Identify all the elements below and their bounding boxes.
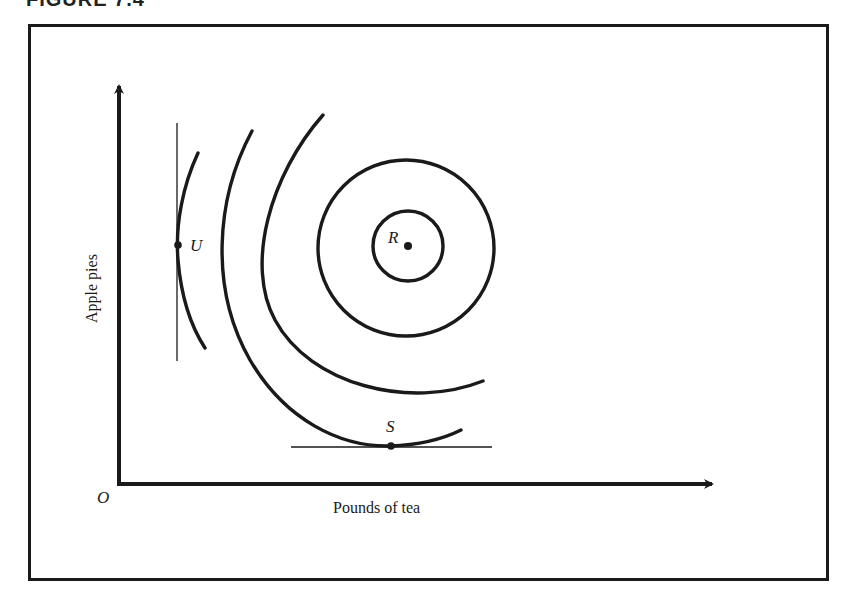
x-axis-label: Pounds of tea (333, 499, 420, 516)
point-r-label: R (387, 228, 399, 247)
point-r-dot (404, 242, 412, 250)
point-u-dot (174, 241, 182, 249)
indifference-diagram: R U S O Pounds of tea Apple pies (0, 0, 855, 602)
s-indifference-arc (222, 131, 461, 446)
origin-label: O (97, 488, 109, 507)
point-u-label: U (190, 236, 204, 255)
point-s-label: S (386, 417, 395, 436)
point-s-dot (387, 442, 395, 450)
y-axis-label: Apple pies (83, 254, 101, 323)
